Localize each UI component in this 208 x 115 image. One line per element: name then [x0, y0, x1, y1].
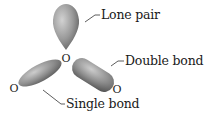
lone-pair-label: Lone pair	[101, 9, 160, 22]
left-oxygen-atom: O	[9, 83, 18, 94]
lone-pair-lobe	[53, 4, 79, 50]
single-bond-label: Single bond	[66, 98, 139, 111]
lone-pair-leader-line	[85, 15, 100, 22]
central-oxygen-atom: O	[61, 53, 70, 64]
ozone-electron-domain-diagram: O O O Lone pair Double bond Single bond	[0, 0, 208, 115]
right-oxygen-atom: O	[112, 84, 121, 95]
double-bond-lobe	[68, 54, 118, 95]
single-bond-leader-line	[43, 90, 65, 104]
double-bond-label: Double bond	[125, 55, 203, 68]
double-bond-leader-line	[111, 61, 124, 66]
single-bond-lobe	[15, 54, 65, 92]
